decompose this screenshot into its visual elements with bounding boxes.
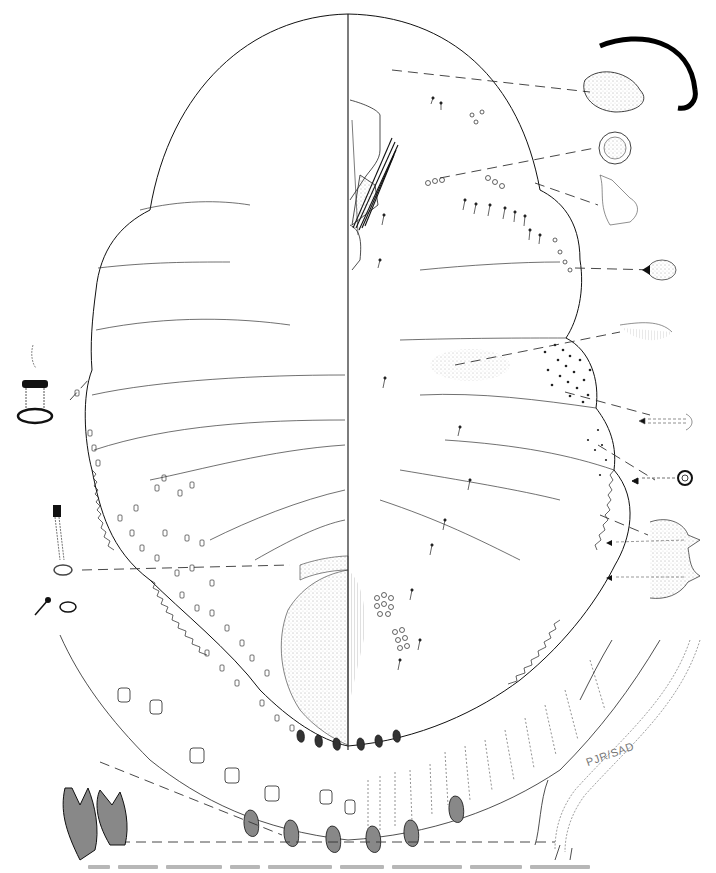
stigmatic-seta-inset bbox=[642, 260, 676, 280]
margin-crenulation-right bbox=[508, 470, 614, 684]
marginal-spines bbox=[297, 730, 400, 750]
dorsal-ducts bbox=[75, 390, 294, 731]
spiracle-inset bbox=[599, 132, 631, 164]
anal-plate bbox=[281, 556, 366, 745]
margin-crenulation-left bbox=[92, 470, 207, 655]
vulvar-pore-cluster bbox=[375, 593, 410, 651]
caption-text-fragment bbox=[392, 865, 462, 869]
caption-text-fragment bbox=[268, 865, 332, 869]
anal-lobe-inset bbox=[606, 520, 700, 599]
marginal-duct-inset bbox=[53, 505, 72, 575]
mouthparts bbox=[350, 100, 398, 270]
caption-text-fragment bbox=[340, 865, 384, 869]
figure-caption-cropped bbox=[88, 862, 648, 870]
segment-lines bbox=[92, 202, 614, 560]
caption-text-fragment bbox=[530, 865, 590, 869]
antenna-inset bbox=[600, 175, 638, 225]
duct-inset-1 bbox=[620, 323, 672, 340]
ventral-stippled-patch bbox=[430, 349, 510, 381]
caption-text-fragment bbox=[230, 865, 260, 869]
caption-text-fragment bbox=[88, 865, 110, 869]
spiracle-pores bbox=[426, 110, 573, 272]
expanded-spines bbox=[244, 796, 464, 853]
duct-inset-2 bbox=[639, 414, 692, 430]
claw-inset bbox=[584, 39, 696, 112]
caption-text-fragment bbox=[118, 865, 158, 869]
lower-spine-insets bbox=[63, 788, 127, 860]
dorsal-duct-inset bbox=[18, 345, 52, 423]
disc-pore-inset bbox=[632, 471, 692, 485]
expanded-ventral-setae bbox=[368, 660, 605, 830]
ventral-setae bbox=[378, 97, 541, 670]
scale-insect-illustration bbox=[0, 0, 716, 873]
caption-text-fragment bbox=[470, 865, 522, 869]
caption-text-fragment bbox=[166, 865, 222, 869]
marginal-spine-inset bbox=[35, 597, 76, 615]
